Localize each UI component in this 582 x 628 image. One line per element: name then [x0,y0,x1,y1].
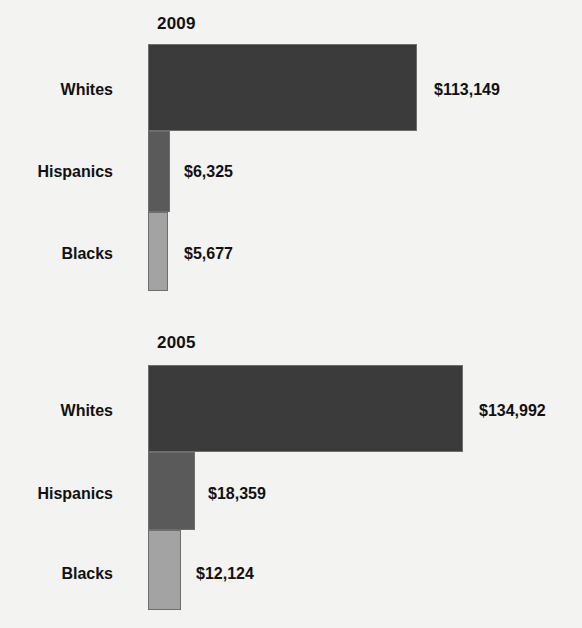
chart-panel-2009: 2009 Whites $113,149 Hispanics $6,325 Bl… [0,0,582,320]
category-label-2005-hispanics: Hispanics [0,485,113,503]
bar-2005-whites [148,365,463,452]
chart-panel-2005: 2005 Whites $134,992 Hispanics $18,359 B… [0,320,582,628]
category-label-2009-blacks: Blacks [0,245,113,263]
value-label-2005-whites: $134,992 [479,402,546,420]
bar-2009-hispanics [148,131,170,212]
category-label-2009-hispanics: Hispanics [0,163,113,181]
bar-2009-blacks [148,212,168,291]
value-label-2009-whites: $113,149 [434,81,500,99]
category-label-2005-whites: Whites [0,402,113,420]
panel-2009-year-label: 2009 [157,14,196,34]
bar-2005-hispanics [148,452,195,530]
bar-2009-whites [148,44,417,131]
value-label-2005-hispanics: $18,359 [208,485,266,503]
panel-2005-year-label: 2005 [157,333,196,353]
category-label-2009-whites: Whites [0,81,113,99]
value-label-2009-hispanics: $6,325 [184,163,233,181]
category-label-2005-blacks: Blacks [0,565,113,583]
value-label-2009-blacks: $5,677 [184,245,233,263]
bar-2005-blacks [148,530,181,610]
chart-figure: 2009 Whites $113,149 Hispanics $6,325 Bl… [0,0,582,628]
value-label-2005-blacks: $12,124 [196,565,254,583]
